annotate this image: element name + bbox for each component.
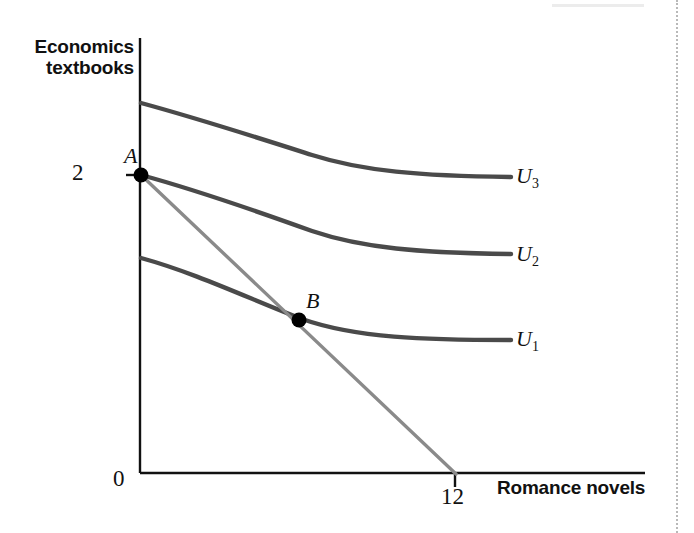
indifference-curve-figure: Economics textbooks Romance novels 2 0 1… (0, 0, 694, 533)
point-marker-a (134, 168, 149, 183)
curve-label-u3-subscript: 3 (532, 176, 539, 191)
point-marker-b (292, 313, 307, 328)
curve-label-u2: U2 (516, 241, 539, 270)
curve-label-u2-base: U (516, 241, 532, 266)
chart-canvas (0, 0, 694, 533)
curve-label-u1-subscript: 1 (532, 339, 539, 354)
y-axis-title-line-2: textbooks (46, 57, 134, 78)
origin-label: 0 (113, 466, 125, 492)
page-smudge-artifact (552, 4, 644, 7)
y-axis-title-line-1: Economics (34, 36, 134, 57)
indifference-curve-u1 (141, 258, 511, 340)
y-axis-title: Economics textbooks (22, 36, 134, 79)
point-label-a: A (124, 143, 137, 169)
page-edge-rule (676, 0, 678, 533)
curve-label-u3-base: U (516, 163, 532, 188)
indifference-curve-u2 (141, 175, 511, 254)
point-label-b: B (306, 288, 319, 314)
y-tick-label-2: 2 (72, 160, 84, 186)
curve-label-u1-base: U (516, 326, 532, 351)
indifference-curve-u3 (141, 103, 511, 177)
curve-label-u1: U1 (516, 326, 539, 355)
curve-label-u3: U3 (516, 163, 539, 192)
curve-label-u2-subscript: 2 (532, 254, 539, 269)
x-tick-label-12: 12 (441, 484, 464, 510)
x-axis-title: Romance novels (497, 477, 645, 498)
